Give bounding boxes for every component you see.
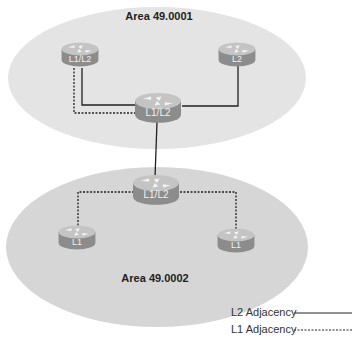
legend-l1-label: L1 Adjacency bbox=[231, 323, 296, 335]
network-diagram bbox=[0, 0, 359, 347]
area-label-bottom: Area 49.0002 bbox=[121, 272, 188, 284]
router-label: L2 bbox=[232, 54, 242, 64]
router-label: L1 bbox=[231, 240, 241, 250]
router-label: L1/L2 bbox=[143, 189, 168, 200]
router-label: L1/L2 bbox=[69, 54, 92, 64]
router-label: L1/L2 bbox=[145, 107, 170, 118]
legend-l2-label: L2 Adjacency bbox=[231, 306, 296, 318]
area-label-top: Area 49.0001 bbox=[125, 10, 192, 22]
router-label: L1 bbox=[72, 237, 82, 247]
